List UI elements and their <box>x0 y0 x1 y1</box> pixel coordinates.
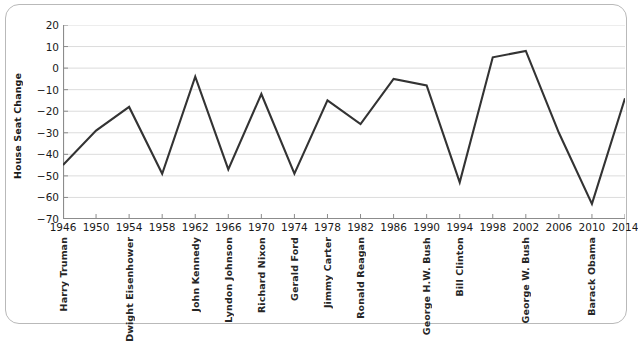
president-label: George W. Bush <box>520 237 531 323</box>
x-axis-tick-label: 1978 <box>314 221 341 233</box>
x-axis-ticks <box>63 25 625 219</box>
y-axis-tick-label: 0 <box>29 62 59 74</box>
president-label: Barack Obama <box>586 237 597 316</box>
president-annotation-labels: Harry TrumanDwight EisenhowerJohn Kenned… <box>63 237 625 333</box>
president-label: John Kennedy <box>190 237 201 312</box>
gridlines <box>63 25 625 219</box>
x-axis-tick-label: 1946 <box>50 221 77 233</box>
president-label: Gerald Ford <box>289 237 300 301</box>
x-axis-tick-label: 1954 <box>116 221 143 233</box>
president-label: Lyndon Johnson <box>223 237 234 323</box>
plot-area <box>63 25 625 219</box>
president-label: Harry Truman <box>58 237 69 311</box>
x-axis-tick-label: 1982 <box>347 221 374 233</box>
x-axis-tick-labels: 1946195019541958196219661970197419781982… <box>63 221 625 237</box>
y-axis-tick-label: −40 <box>29 148 59 160</box>
x-axis-tick-label: 1962 <box>182 221 209 233</box>
president-label: Ronald Reagan <box>355 237 366 319</box>
x-axis-tick-label: 2010 <box>579 221 606 233</box>
y-axis-tick-label: −20 <box>29 105 59 117</box>
x-axis-tick-label: 1966 <box>215 221 242 233</box>
y-axis-tick-label: 20 <box>29 19 59 31</box>
x-axis-tick-label: 2006 <box>546 221 573 233</box>
x-axis-tick-label: 1994 <box>446 221 473 233</box>
x-axis-tick-label: 2014 <box>612 221 638 233</box>
x-axis-tick-label: 1998 <box>479 221 506 233</box>
x-axis-tick-label: 1986 <box>380 221 407 233</box>
president-label: Jimmy Carter <box>322 237 333 308</box>
x-axis-tick-label: 1958 <box>149 221 176 233</box>
chart-frame: House Seat Change 20100−10−20−30−40−50−6… <box>5 4 627 324</box>
president-label: Bill Clinton <box>454 237 465 297</box>
y-axis-tick-label: 10 <box>29 41 59 53</box>
y-axis-tick-label: −10 <box>29 84 59 96</box>
x-axis-tick-label: 1970 <box>248 221 275 233</box>
president-label: Richard Nixon <box>256 237 267 313</box>
president-label: Dwight Eisenhower <box>124 237 135 342</box>
y-axis-tick-label: −50 <box>29 170 59 182</box>
data-series-line <box>63 51 625 204</box>
y-axis-tick-label: −60 <box>29 191 59 203</box>
x-axis-tick-label: 1990 <box>413 221 440 233</box>
y-axis-tick-label: −30 <box>29 127 59 139</box>
y-axis-tick-labels: 20100−10−20−30−40−50−60−70 <box>26 25 59 219</box>
x-axis-tick-label: 1974 <box>281 221 308 233</box>
line-chart-svg <box>63 25 625 219</box>
x-axis-tick-label: 2002 <box>512 221 539 233</box>
x-axis-tick-label: 1950 <box>83 221 110 233</box>
president-label: George H.W. Bush <box>421 237 432 335</box>
